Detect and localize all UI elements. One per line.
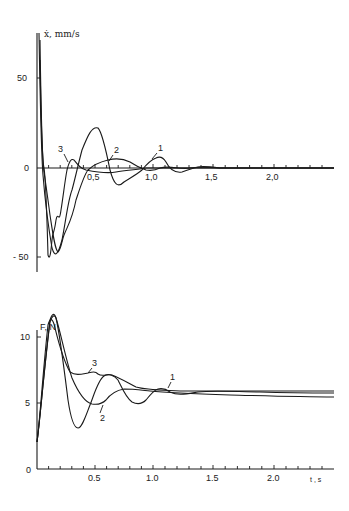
ytick-label-0: 0	[26, 465, 31, 475]
ytick-label-5: 5	[25, 398, 30, 408]
force-chart: F, N 10 5 0 0.5 1.0 1.5 2.0 t , s 3 2 1	[20, 314, 334, 483]
x-axis-label: t , s	[310, 476, 322, 483]
ytick-label-0: 0	[24, 163, 29, 173]
velocity-curve-2-label: 2	[114, 145, 119, 155]
xtick-label-1.5: 1.5	[206, 473, 219, 483]
velocity-curve-1	[39, 33, 334, 254]
velocity-chart: ẋ, mm/s 50 0 - 50 0,5 1,0 1,5 2,0 3 2 1	[13, 29, 334, 272]
xtick-label-0.5: 0,5	[87, 172, 100, 182]
curve-1-leader	[168, 382, 171, 388]
xtick-label-2.0: 2.0	[267, 473, 280, 483]
x-ticks	[49, 465, 322, 469]
y-axis-label: ẋ, mm/s	[44, 29, 80, 39]
force-curve-3-label: 3	[92, 358, 97, 368]
force-curve-1-label: 1	[170, 372, 175, 382]
force-curve-1	[37, 314, 334, 442]
curve-2-leader	[100, 405, 103, 413]
ytick-label-10: 10	[20, 332, 30, 342]
xtick-label-1.5: 1,5	[205, 172, 218, 182]
ytick-label-minus50: - 50	[13, 252, 29, 262]
velocity-curve-3-label: 3	[58, 144, 63, 154]
force-curve-2	[37, 316, 334, 442]
xtick-label-2.0: 2,0	[266, 172, 279, 182]
force-curve-2-label: 2	[100, 413, 105, 423]
velocity-curve-3	[40, 60, 334, 257]
velocity-curve-1-label: 1	[158, 143, 163, 153]
figure: ẋ, mm/s 50 0 - 50 0,5 1,0 1,5 2,0 3 2 1	[0, 0, 349, 511]
curve-3-leader	[64, 154, 68, 162]
xtick-label-1.0: 1.0	[146, 473, 159, 483]
x-ticks	[49, 164, 322, 168]
xtick-label-0.5: 0.5	[88, 473, 101, 483]
ytick-label-50: 50	[17, 73, 27, 83]
curve-2-leader	[109, 155, 113, 161]
xtick-label-1.0: 1,0	[145, 172, 158, 182]
